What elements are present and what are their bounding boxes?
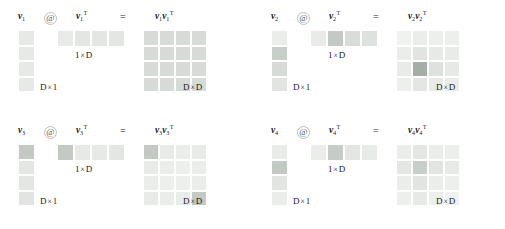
matrix-cell [18,61,35,77]
column-vector-grid [18,144,35,206]
matrix-cell [159,30,175,46]
row-vector-grid [310,30,378,47]
outer-product-block-4: v4@v4T=v4v4TD×11×DD×D [253,114,505,228]
matrix-cell [412,46,428,62]
matrix-cell [143,46,159,62]
matrix-cell [18,46,35,62]
column-vector-grid [271,144,288,206]
matrix-cell [18,144,35,160]
matrix-cell [143,30,159,46]
matrix-cell [143,160,159,176]
matrix-cell [412,144,428,160]
equation-labels: v4@v4T=v4v4T [253,122,505,142]
matrix-cell [310,144,327,161]
matrix-cell [159,61,175,77]
row-vector-dim-label: 1×D [328,51,345,60]
matrix-cell [428,175,444,191]
column-vector-dim-label: D×1 [40,197,57,206]
matrix-cell [175,61,191,77]
matrix-cell [57,144,74,161]
matrix-cell [271,77,288,93]
row-vector-dim-label: 1×D [75,51,92,60]
matrix-cell [159,77,175,93]
matrix-cell [344,144,361,161]
matrix-cell [428,160,444,176]
matrix-cell [143,61,159,77]
matrix-cell [91,30,108,47]
outer-product-block-1: v1@v1T=v1v1TD×11×DD×D [0,0,252,114]
output-matrix-dim-label: D×D [183,83,202,92]
matrix-cell [175,144,191,160]
matrix-cell [191,160,207,176]
equation-labels: v1@v1T=v1v1T [0,8,252,28]
matrix-cell [143,191,159,207]
matrix-cell [271,30,288,46]
matrix-cell [175,160,191,176]
output-matrix-dim-label: D×D [183,197,202,206]
column-vector-dim-label: D×1 [40,83,57,92]
row-vector-grid [57,30,125,47]
matrix-cell [396,144,412,160]
matrix-cell [18,175,35,191]
column-vector-label: v3 [18,126,25,136]
matrix-cell [444,160,460,176]
matrix-cell [108,30,125,47]
column-vector-label: v2 [271,12,278,22]
matrix-cell [191,30,207,46]
matrix-cell [143,144,159,160]
matrix-cell [271,144,288,160]
column-vector-dim-label: D×1 [293,197,310,206]
column-vector-label: v1 [18,12,25,22]
matrix-cell [428,61,444,77]
matrix-cell [396,77,412,93]
column-vector-grid [18,30,35,92]
matrix-cell [74,30,91,47]
equals-symbol: = [373,126,379,136]
row-vector-dim-label: 1×D [328,165,345,174]
matrix-cell [361,144,378,161]
matrix-cell [271,46,288,62]
matrix-cell [396,191,412,207]
column-vector-dim-label: D×1 [293,83,310,92]
matrix-cell [444,144,460,160]
outer-product-block-2: v2@v2T=v2v2TD×11×DD×D [253,0,505,114]
equation-labels: v2@v2T=v2v2T [253,8,505,28]
matrix-cell [74,144,91,161]
row-vector-label: v1T [76,12,87,22]
matrix-cell [412,160,428,176]
matrix-cell [18,160,35,176]
matrix-cell [310,30,327,47]
matrix-cell [428,46,444,62]
matrix-cell [444,175,460,191]
matrix-cell [18,191,35,207]
matrix-cell [159,175,175,191]
outer-product-block-3: v3@v3T=v3v3TD×11×DD×D [0,114,252,228]
output-matrix-label: v2v2T [408,12,426,22]
matrix-cell [444,46,460,62]
matrix-cell [191,144,207,160]
matrix-cell [396,30,412,46]
row-vector-label: v3T [76,126,87,136]
matrix-cell [428,144,444,160]
matrix-cell [159,191,175,207]
column-vector-label: v4 [271,126,278,136]
matrix-cell [191,175,207,191]
matrix-cell [271,191,288,207]
output-matrix-dim-label: D×D [436,197,455,206]
matrix-cell [361,30,378,47]
matrix-cell [143,77,159,93]
matrix-cell [91,144,108,161]
equation-labels: v3@v3T=v3v3T [0,122,252,142]
matrix-cell [444,30,460,46]
output-matrix-dim-label: D×D [436,83,455,92]
matrix-cell [396,160,412,176]
matrix-cell [175,175,191,191]
matrix-cell [108,144,125,161]
matmul-operator-symbol: @ [297,12,310,25]
matrix-cell [444,61,460,77]
matrix-cell [271,175,288,191]
matrix-cell [143,175,159,191]
matrix-cell [175,46,191,62]
matrix-cell [396,175,412,191]
matmul-operator-symbol: @ [44,12,57,25]
